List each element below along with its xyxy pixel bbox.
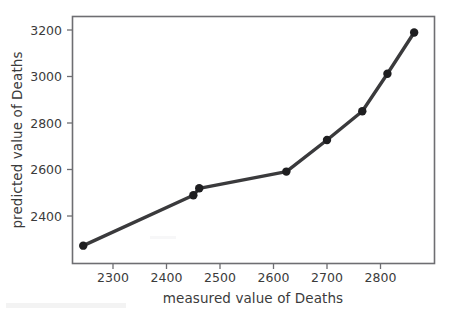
x-axis-label: measured value of Deaths: [163, 290, 343, 306]
x-tick-label: 2700: [311, 270, 343, 285]
y-tick-labels: 2400 2600 2800 3000 3200: [30, 23, 62, 224]
y-tickmarks: [67, 30, 72, 216]
x-tick-label: 2600: [258, 270, 290, 285]
x-tick-labels: 2300 2400 2500 2600 2700 2800: [97, 270, 396, 285]
y-tick-label: 2600: [30, 162, 62, 177]
x-tick-label: 2500: [204, 270, 236, 285]
y-tick-label: 3200: [30, 23, 62, 38]
data-point: [195, 184, 203, 192]
x-tick-label: 2300: [97, 270, 129, 285]
x-tick-label: 2800: [365, 270, 397, 285]
x-tickmarks: [113, 264, 381, 269]
chart-figure: 2300 2400 2500 2600 2700 2800 2400 2600 …: [0, 0, 450, 315]
line-chart: 2300 2400 2500 2600 2700 2800 2400 2600 …: [0, 0, 450, 315]
x-tick-label: 2400: [151, 270, 183, 285]
data-point: [282, 167, 290, 175]
data-point: [79, 241, 87, 249]
y-tick-label: 2800: [30, 116, 62, 131]
data-point: [358, 107, 366, 115]
y-tick-label: 2400: [30, 209, 62, 224]
data-point: [323, 136, 331, 144]
y-tick-label: 3000: [30, 69, 62, 84]
data-point: [189, 191, 197, 199]
y-axis-label: predicted value of Deaths: [9, 51, 25, 228]
data-point: [383, 70, 391, 78]
data-point: [410, 28, 418, 36]
